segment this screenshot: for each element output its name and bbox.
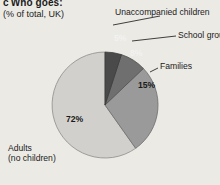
leader-line-families bbox=[150, 68, 158, 72]
label-adults-line2: (no children) bbox=[8, 153, 56, 163]
value-unaccompanied-children: 5% bbox=[114, 33, 126, 43]
label-families: Families bbox=[160, 61, 192, 71]
value-adults: 72% bbox=[66, 114, 83, 124]
leader-line-unaccompanied bbox=[113, 16, 160, 25]
label-school-groups: School groups bbox=[178, 30, 220, 40]
value-school-groups: 8% bbox=[130, 48, 142, 58]
label-unaccompanied-children: Unaccompanied children bbox=[115, 7, 210, 17]
chart-panel: cWho goes: (% of total, UK) Unaccompanie… bbox=[0, 0, 220, 185]
label-adults: Adults (no children) bbox=[8, 143, 56, 163]
label-adults-line1: Adults bbox=[8, 143, 56, 153]
value-families: 15% bbox=[138, 80, 155, 90]
leader-line-school bbox=[132, 36, 176, 41]
